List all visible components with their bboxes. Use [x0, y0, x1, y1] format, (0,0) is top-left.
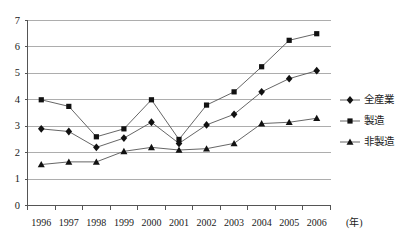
- y-tick-label: 1: [6, 174, 20, 185]
- x-tick-label: 2006: [300, 218, 334, 228]
- series-line-0: [41, 71, 316, 148]
- data-point-square: [259, 64, 264, 69]
- legend-label-triangle[interactable]: 非製造: [364, 136, 394, 147]
- data-point-square: [204, 102, 209, 107]
- data-point-square: [66, 104, 71, 109]
- data-point-square: [314, 31, 319, 36]
- data-point-triangle: [148, 144, 155, 150]
- chart-canvas: [0, 0, 407, 244]
- data-point-triangle: [313, 115, 320, 121]
- x-axis-unit-label: (年): [346, 218, 363, 228]
- series-line-1: [41, 34, 316, 140]
- legend-label-diamond[interactable]: 全産業: [364, 94, 394, 105]
- data-point-diamond: [66, 128, 73, 136]
- y-tick-label: 2: [6, 148, 20, 159]
- y-tick-label: 3: [6, 121, 20, 132]
- y-tick-label: 7: [6, 16, 20, 27]
- data-point-square: [347, 118, 352, 123]
- data-point-diamond: [93, 143, 100, 151]
- data-point-diamond: [121, 134, 128, 142]
- y-tick-label: 6: [6, 42, 20, 53]
- y-tick-label: 5: [6, 68, 20, 79]
- y-tick-label: 0: [6, 201, 20, 212]
- y-tick-label: 4: [6, 95, 20, 106]
- data-point-diamond: [231, 110, 238, 118]
- data-point-square: [39, 97, 44, 102]
- data-point-diamond: [286, 75, 293, 83]
- data-point-triangle: [231, 140, 238, 146]
- data-point-square: [176, 137, 181, 142]
- data-point-diamond: [347, 96, 354, 104]
- data-point-square: [94, 134, 99, 139]
- data-point-square: [231, 89, 236, 94]
- line-chart: 0123456719961997199819992000200120022003…: [0, 0, 407, 244]
- data-point-diamond: [148, 118, 155, 126]
- data-point-diamond: [203, 121, 210, 129]
- data-point-diamond: [258, 88, 265, 96]
- data-point-square: [287, 38, 292, 43]
- data-point-square: [149, 97, 154, 102]
- legend-label-square[interactable]: 製造: [364, 115, 384, 126]
- data-point-square: [121, 126, 126, 131]
